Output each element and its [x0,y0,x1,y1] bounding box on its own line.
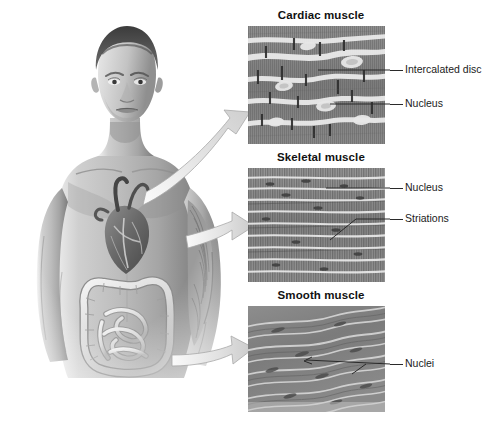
label-cardiac-nucleus: Nucleus [405,97,443,109]
panel-cardiac-micrograph [248,26,385,144]
vignette [28,22,240,412]
label-skeletal-nucleus: Nucleus [405,181,443,193]
panel-cardiac-title: Cardiac muscle [248,8,394,22]
figure-canvas: Cardiac muscle [0,0,502,434]
panel-smooth-title: Smooth muscle [248,288,394,302]
leader-striations [390,219,403,220]
human-figure-svg [28,22,240,412]
leader-nuclei [390,364,403,365]
panel-smooth: Smooth muscle [248,288,394,412]
label-nuclei: Nuclei [405,357,434,369]
panel-skeletal-micrograph [248,168,385,282]
panel-skeletal-title: Skeletal muscle [248,150,394,164]
label-striations: Striations [405,212,449,224]
label-intercalated-disc: Intercalated disc [405,63,481,75]
leader-cardiac-nucleus [390,104,403,105]
panel-smooth-micrograph [248,306,385,412]
panel-cardiac: Cardiac muscle [248,8,394,144]
panel-skeletal: Skeletal muscle [248,150,394,282]
human-figure-illustration [28,22,240,412]
leader-skeletal-nucleus [390,188,403,189]
leader-intercalated-disc [390,70,403,71]
